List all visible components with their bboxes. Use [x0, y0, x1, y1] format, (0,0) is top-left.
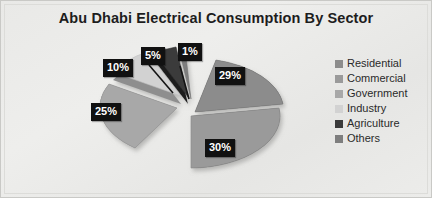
- legend-label: Others: [347, 133, 380, 144]
- data-label-agriculture: 5%: [141, 47, 165, 65]
- legend-item-others[interactable]: Others: [335, 131, 429, 146]
- data-label-government: 25%: [91, 103, 121, 121]
- data-label-others: 1%: [178, 43, 202, 61]
- legend-label: Government: [347, 88, 408, 99]
- legend-label: Commercial: [347, 73, 406, 84]
- chart-legend: Residential Commercial Government Indust…: [335, 56, 429, 146]
- pie-plot-area: 10% 5% 1% 29% 30% 25%: [61, 31, 321, 186]
- data-label-residential: 29%: [215, 67, 245, 85]
- legend-swatch-icon: [335, 105, 343, 113]
- legend-item-government[interactable]: Government: [335, 86, 429, 101]
- legend-swatch-icon: [335, 60, 343, 68]
- data-label-industry: 10%: [103, 59, 133, 77]
- legend-label: Residential: [347, 58, 401, 69]
- legend-item-residential[interactable]: Residential: [335, 56, 429, 71]
- chart-title: Abu Dhabi Electrical Consumption By Sect…: [1, 10, 431, 26]
- legend-label: Industry: [347, 103, 386, 114]
- legend-swatch-icon: [335, 75, 343, 83]
- legend-swatch-icon: [335, 120, 343, 128]
- data-label-commercial: 30%: [205, 139, 235, 157]
- legend-swatch-icon: [335, 90, 343, 98]
- legend-item-agriculture[interactable]: Agriculture: [335, 116, 429, 131]
- legend-item-commercial[interactable]: Commercial: [335, 71, 429, 86]
- legend-item-industry[interactable]: Industry: [335, 101, 429, 116]
- legend-swatch-icon: [335, 135, 343, 143]
- legend-label: Agriculture: [347, 118, 400, 129]
- chart-container: Abu Dhabi Electrical Consumption By Sect…: [0, 0, 432, 198]
- pie-slice-commercial: [191, 108, 280, 168]
